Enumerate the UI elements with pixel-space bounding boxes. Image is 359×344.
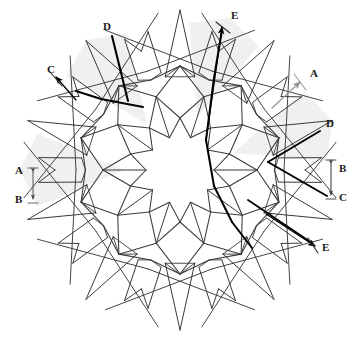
- spur-crease: [81, 202, 96, 213]
- petal-edge: [241, 86, 242, 125]
- rosette-edge: [214, 154, 229, 170]
- crease-pattern-svg: [0, 0, 359, 344]
- label-d-right: D: [326, 118, 334, 129]
- petal-edge: [118, 125, 150, 128]
- figure-root: ABCDEADBCE: [0, 0, 359, 344]
- hub-edge: [209, 254, 241, 260]
- label-b-right: B: [339, 163, 347, 174]
- petal-edge: [180, 243, 204, 274]
- label-b-left: B: [15, 194, 23, 205]
- spur-crease: [93, 114, 103, 122]
- petal-edge: [149, 212, 156, 243]
- leader-tick-a: [294, 74, 306, 90]
- label-a-left: A: [15, 165, 23, 176]
- label-c-topleft: C: [47, 64, 55, 75]
- rosette-edge: [149, 128, 152, 150]
- leader-tick-e-bottom: [308, 238, 318, 253]
- petal-edge: [149, 97, 156, 128]
- hub-edge: [241, 86, 256, 115]
- heavy-crease-e-right: [248, 200, 312, 243]
- spike-edge: [223, 254, 274, 299]
- petal-edge: [204, 212, 211, 243]
- spur-crease: [81, 127, 96, 138]
- petal-edge: [118, 212, 150, 215]
- petal-edge: [229, 154, 257, 170]
- notch-spike-edge: [281, 243, 287, 263]
- spike-base: [223, 237, 247, 254]
- spike-base: [264, 185, 273, 213]
- rosette-edge: [131, 186, 153, 190]
- label-c-right: C: [339, 192, 347, 203]
- spike-edge: [86, 254, 137, 299]
- spur-crease: [93, 218, 103, 226]
- label-a-topright: A: [310, 68, 318, 79]
- rosette-edge: [169, 202, 180, 222]
- spur-crease: [257, 218, 267, 226]
- petal-edge: [211, 125, 243, 128]
- rosette-edge: [131, 154, 146, 170]
- rosette-edge: [131, 150, 153, 154]
- petal-edge: [229, 170, 257, 186]
- spike-base: [87, 127, 96, 155]
- spike-base: [87, 185, 96, 213]
- heavy-crease-meridian: [214, 186, 232, 222]
- rosette-edge: [149, 190, 152, 212]
- notch-spike-edge: [281, 77, 287, 97]
- petal-edge: [156, 243, 180, 274]
- spike-base: [113, 237, 137, 254]
- petal-edge: [156, 66, 180, 97]
- shaded-wedge: [233, 91, 332, 161]
- rosette-edge: [180, 202, 191, 222]
- leader-arrow-e-bottomright: [266, 214, 315, 246]
- heavy-crease-meridian: [206, 140, 214, 186]
- label-e-bottomright: E: [322, 242, 330, 253]
- rosette-edge: [208, 190, 211, 212]
- rosette-edge: [208, 150, 230, 154]
- notch-spike-edge: [73, 243, 79, 263]
- notch-spike-edge: [148, 32, 161, 73]
- hub-edge: [119, 254, 151, 260]
- hub-edge: [103, 226, 118, 255]
- shaded-wedges-layer: [20, 18, 332, 207]
- label-e-top: E: [231, 10, 239, 21]
- rosette-edge: [214, 170, 229, 186]
- spur-crease: [257, 114, 267, 122]
- label-d-top: D: [103, 21, 111, 32]
- rosette-edge: [208, 186, 230, 190]
- rosette-edge: [180, 118, 191, 138]
- heavy-crease-c-right: [268, 162, 327, 196]
- spike-base: [223, 86, 247, 103]
- spike-edge: [86, 237, 113, 300]
- petal-edge: [118, 215, 119, 254]
- hub-edge: [241, 226, 256, 255]
- rosette-edge: [169, 118, 180, 138]
- rosette-edge: [131, 170, 146, 186]
